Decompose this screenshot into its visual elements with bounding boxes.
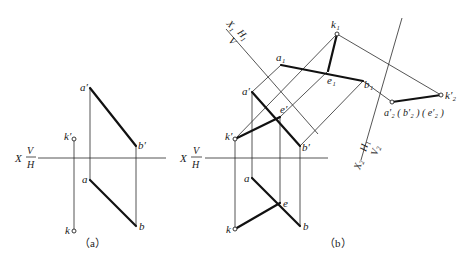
point-k-prime [72, 137, 76, 141]
label-a-prime: a′ [80, 81, 89, 93]
label-a1: a₁ [276, 51, 286, 63]
segment-a2-k2 [392, 95, 441, 102]
x-axis-label: X [14, 152, 23, 164]
label-k: k [65, 224, 71, 236]
label-b-prime: b′ [302, 141, 311, 153]
label-a2-b2-e2: a′₂ ( b′₂ ) ( e′₂ ) [384, 107, 444, 119]
label-b: b [139, 220, 145, 232]
point-a2-b2-e2 [390, 100, 394, 104]
figure-a: X V H a′ b′ k′ a b k （a） [14, 81, 166, 249]
projection-diagram: X V H a′ b′ k′ a b k （a） X V H X₁ H1 [0, 0, 468, 261]
segment-a-b [252, 178, 300, 226]
segment-a-b [90, 180, 136, 226]
projection-line-a-a1 [252, 65, 281, 92]
point-k1 [335, 32, 339, 36]
label-a-prime: a′ [242, 85, 251, 97]
label-a: a [244, 172, 250, 184]
point-k-prime [233, 137, 237, 141]
caption-b: （b） [324, 237, 352, 249]
label-b1: b₁ [364, 78, 374, 90]
segment-k-prime-e-prime [235, 117, 280, 139]
segment-k1-e1 [328, 34, 337, 71]
segment-k-e [235, 203, 280, 229]
point-k [233, 227, 237, 231]
x2-axis-label: X2 [351, 158, 367, 172]
label-b: b [303, 220, 309, 232]
point-k2 [439, 93, 443, 97]
projection-line-b-b1 [300, 81, 363, 146]
segment-a-prime-b-prime [90, 88, 136, 146]
x-axis-label: X [179, 152, 188, 164]
label-b-prime: b′ [138, 139, 147, 151]
x1-axis-line [226, 29, 318, 134]
label-k-prime: k′ [225, 130, 233, 142]
label-k1: k₁ [331, 18, 340, 30]
caption-a: （a） [79, 237, 106, 249]
figure-b: X V H X₁ H1 V H1 V2 X2 [179, 17, 456, 249]
label-k-prime: k′ [64, 130, 72, 142]
label-e-prime: e′ [280, 103, 288, 115]
point-k [72, 229, 76, 233]
label-e: e [283, 197, 288, 209]
label-a: a [82, 173, 88, 185]
v-plane-label: V [193, 145, 201, 156]
label-e1: e₁ [327, 74, 336, 86]
h-plane-label: H [191, 159, 200, 170]
projection-line-k1-k2 [337, 34, 441, 95]
h-plane-label: H [26, 159, 35, 170]
v-plane-label: V [27, 145, 35, 156]
x1-axis-label: X₁ [224, 17, 239, 32]
label-k2: k′₂ [445, 89, 456, 101]
label-k: k [226, 223, 232, 235]
